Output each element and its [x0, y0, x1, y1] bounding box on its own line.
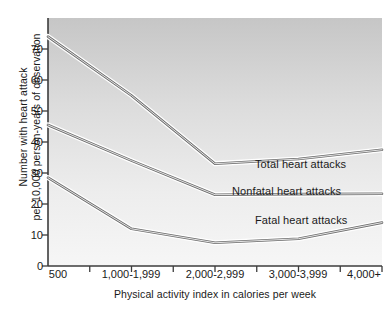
y-tick-label: 10 — [21, 230, 43, 241]
x-tick-label: 2,000-2,999 — [186, 268, 245, 280]
y-tick-label: 50 — [21, 106, 43, 117]
series-label-nonfatal: Nonfatal heart attacks — [232, 185, 341, 197]
x-axis-tick-labels: 500 1,000-1,999 2,000-2,999 3,000-3,999 … — [0, 268, 391, 286]
line-chart-plot — [0, 0, 391, 313]
y-tick-label: 60 — [21, 75, 43, 86]
y-tick-label: 20 — [21, 199, 43, 210]
x-tick-label: 500 — [49, 268, 67, 280]
y-tick-label: 40 — [21, 137, 43, 148]
plot-area-background — [48, 18, 382, 266]
chart-figure: 0 10 20 30 40 50 60 70 500 1,000-1,999 2… — [0, 0, 391, 313]
series-label-fatal: Fatal heart attacks — [255, 214, 347, 226]
x-tick-label: 4,000+ — [347, 268, 381, 280]
y-tick-label: 30 — [21, 168, 43, 179]
series-label-total: Total heart attacks — [255, 158, 346, 170]
y-axis-tick-labels: 0 10 20 30 40 50 60 70 — [18, 0, 43, 313]
x-axis-title: Physical activity index in calories per … — [48, 288, 382, 300]
y-tick-label: 70 — [21, 44, 43, 55]
x-tick-label: 3,000-3,999 — [269, 268, 328, 280]
x-tick-label: 1,000-1,999 — [102, 268, 161, 280]
